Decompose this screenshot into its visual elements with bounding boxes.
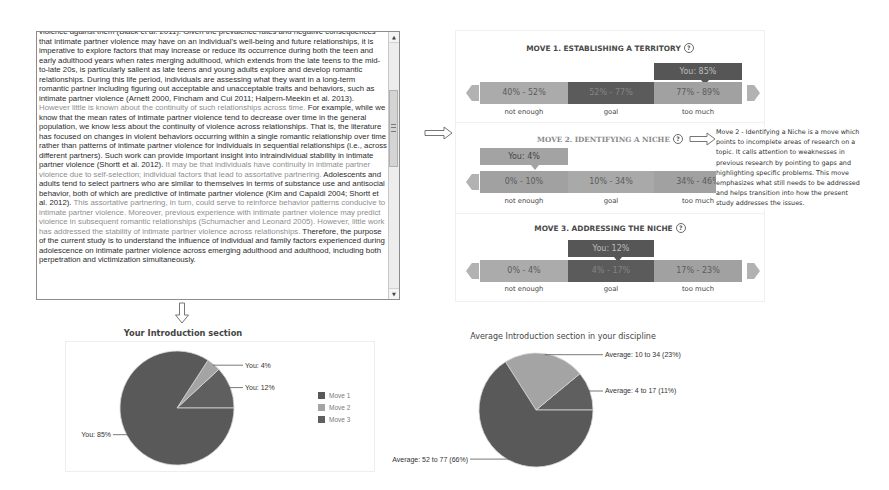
page: violence against them (Black et al. 2011… xyxy=(0,0,889,490)
pie-data-label: You: 85% xyxy=(81,431,111,438)
pie-data-label: Average: 4 to 17 (11%) xyxy=(605,387,676,395)
move-description-tooltip: Move 2 - Identifying a Niche is a move w… xyxy=(716,127,860,209)
arrow-right-icon xyxy=(425,127,452,139)
pie-data-label: Average: 10 to 34 (23%) xyxy=(605,351,681,359)
pie-data-label: Average: 52 to 77 (66%) xyxy=(392,456,468,464)
arrow-right-icon xyxy=(690,133,715,145)
arrow-down-icon xyxy=(176,303,189,323)
average-pie-chart: Average: 4 to 17 (11%)Average: 10 to 34 … xyxy=(392,351,681,467)
graphics-overlay: You: 12%You: 4%You: 85%Average: 4 to 17 … xyxy=(0,0,889,490)
pie-data-label: You: 4% xyxy=(245,362,271,369)
your-pie-chart: You: 12%You: 4%You: 85% xyxy=(81,351,274,465)
pie-data-label: You: 12% xyxy=(245,384,275,391)
pie-charts: You: 12%You: 4%You: 85%Average: 4 to 17 … xyxy=(81,351,680,467)
